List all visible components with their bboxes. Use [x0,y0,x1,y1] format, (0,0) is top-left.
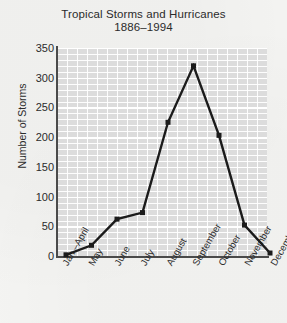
grid-major [57,48,267,256]
y-tick-200: 200 [8,131,54,143]
y-tick-300: 300 [8,72,54,84]
y-tick-0: 0 [8,250,54,262]
y-tick-100: 100 [8,191,54,203]
y-tick-50: 50 [8,220,54,232]
y-axis-line [56,46,58,257]
y-tick-150: 150 [8,161,54,173]
y-axis-ticks: 350 300 250 200 150 100 50 0 [4,0,54,323]
plot-area [57,48,267,256]
y-axis-label: Number of Storms [16,56,28,196]
y-tick-350: 350 [8,42,54,54]
chart-page: Tropical Storms and Hurricanes 1886–1994… [0,0,287,323]
y-tick-250: 250 [8,101,54,113]
